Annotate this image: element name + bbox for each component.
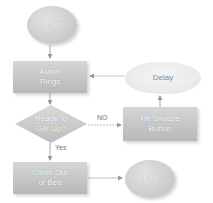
edge-label-no: NO [97,114,108,121]
climb-out-node[interactable]: Climb Out of Bed [13,162,87,194]
end-node[interactable]: End [125,160,175,198]
ready-decision-node[interactable]: Ready to Get Up? [14,104,88,144]
alarm-rings-label-line2: Rings [40,77,60,86]
hit-snooze-label-line1: Hit Snooze [140,114,179,123]
alarm-rings-label: Alarm Rings [40,67,61,87]
alarm-rings-label-line1: Alarm [40,67,61,76]
alarm-rings-node[interactable]: Alarm Rings [13,61,87,93]
climb-out-label: Climb Out of Bed [32,168,68,188]
delay-label: Delay [153,73,173,83]
hit-snooze-label: Hit Snooze Button [140,114,179,134]
hit-snooze-node[interactable]: Hit Snooze Button [123,107,197,141]
start-label: Start [44,20,61,30]
end-label: End [143,174,157,184]
ready-label-line1: Ready to [35,114,67,123]
start-node[interactable]: Start [27,6,77,44]
delay-node[interactable]: Delay [125,62,201,94]
ready-label-line2: Get Up? [36,124,66,133]
hit-snooze-label-line2: Button [148,124,171,133]
climb-out-label-line1: Climb Out [32,168,68,177]
climb-out-label-line2: of Bed [38,178,61,187]
ready-label: Ready to Get Up? [14,104,88,144]
edge-label-yes: Yes [55,144,66,151]
